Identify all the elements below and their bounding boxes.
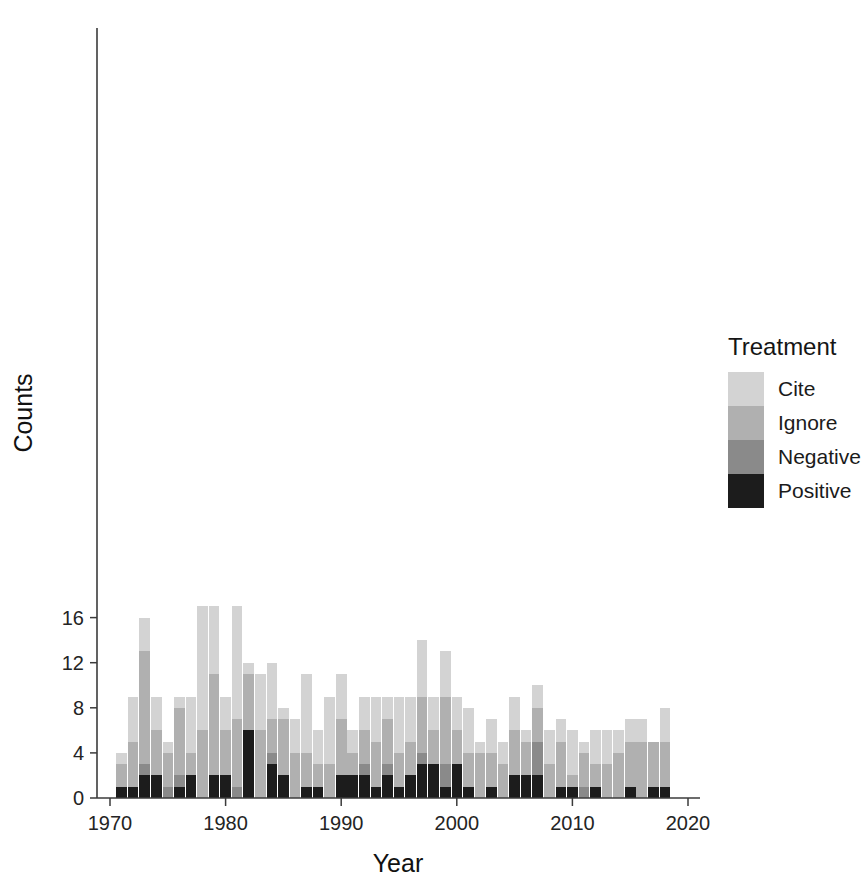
bar-segment-ignore (336, 719, 347, 775)
bar-segment-cite (267, 663, 278, 719)
legend-swatch-positive[interactable] (728, 474, 764, 508)
bar-segment-cite (186, 697, 197, 753)
bar-stack (602, 730, 613, 798)
bar-stack (509, 697, 520, 798)
bar-segment-ignore (521, 742, 532, 776)
bar-stack (220, 697, 231, 798)
bar-segment-cite (174, 697, 185, 708)
legend: Treatment CiteIgnoreNegativePositive (728, 333, 861, 508)
bar-stack (463, 708, 474, 798)
bar-segment-positive (186, 775, 197, 798)
bar-segment-positive (128, 787, 139, 798)
bar-segment-ignore (440, 697, 451, 765)
y-axis-title: Counts (9, 373, 37, 452)
bar-segment-positive (382, 775, 393, 798)
stacked-bar-chart: 0481216 197019801990200020102020 Counts … (0, 0, 863, 893)
bar-segment-cite (116, 753, 127, 764)
bar-segment-positive (405, 775, 416, 798)
bar-segment-cite (556, 719, 567, 742)
bar-stack (209, 606, 220, 798)
bar-segment-positive (371, 787, 382, 798)
bar-segment-cite (324, 697, 335, 765)
bar-segment-cite (602, 730, 613, 764)
bar-segment-ignore (278, 719, 289, 775)
bar-segment-ignore (394, 753, 405, 787)
bar-stack (625, 719, 636, 798)
legend-label-positive[interactable]: Positive (778, 479, 852, 502)
legend-label-cite[interactable]: Cite (778, 377, 815, 400)
bar-segment-cite (452, 697, 463, 731)
bar-segment-positive (347, 775, 358, 798)
bar-segment-positive (278, 775, 289, 798)
bar-segment-ignore (163, 753, 174, 787)
bar-segment-ignore (128, 742, 139, 787)
bar-segment-ignore (243, 674, 254, 730)
bar-segment-ignore (636, 742, 647, 798)
bar-stack (243, 663, 254, 798)
bar-segment-positive (521, 775, 532, 798)
bar-segment-cite (613, 730, 624, 753)
bar-segment-positive (648, 787, 659, 798)
bar-segment-cite (428, 697, 439, 731)
bar-segment-cite (382, 697, 393, 720)
bar-segment-positive (359, 775, 370, 798)
bar-segment-ignore (498, 764, 509, 798)
bar-segment-cite (417, 640, 428, 696)
bar-segment-ignore (197, 730, 208, 798)
bar-stack (359, 697, 370, 798)
bar-stack (151, 697, 162, 798)
bar-segment-ignore (544, 764, 555, 798)
bar-segment-positive (428, 764, 439, 798)
bar-stack (232, 606, 243, 798)
bar-segment-cite (486, 719, 497, 753)
bar-segment-cite (359, 697, 370, 731)
bar-segment-ignore (255, 730, 266, 798)
bar-stack (567, 730, 578, 798)
bar-segment-ignore (405, 742, 416, 776)
legend-label-negative[interactable]: Negative (778, 445, 861, 468)
bar-segment-ignore (347, 753, 358, 776)
bar-stack (579, 742, 590, 798)
bar-segment-cite (347, 730, 358, 753)
bar-segment-cite (509, 697, 520, 731)
bar-segment-ignore (602, 764, 613, 798)
bar-segment-positive (532, 775, 543, 798)
bar-segment-cite (255, 674, 266, 730)
bar-segment-ignore (290, 753, 301, 798)
y-tick-label: 16 (62, 607, 84, 629)
legend-swatch-cite[interactable] (728, 372, 764, 406)
bar-stack (405, 697, 416, 798)
bar-segment-ignore (463, 753, 474, 787)
bar-segment-ignore (382, 719, 393, 764)
bar-stack (498, 742, 509, 798)
bar-segment-ignore (359, 730, 370, 764)
bar-segment-ignore (648, 742, 659, 787)
bar-segment-positive (440, 787, 451, 798)
x-tick-label: 2000 (435, 812, 480, 834)
bar-segment-negative (532, 742, 543, 776)
bar-stack (163, 742, 174, 798)
bar-segment-positive (313, 787, 324, 798)
y-tick-label: 8 (73, 697, 84, 719)
bar-stack (590, 730, 601, 798)
bar-segment-positive (116, 787, 127, 798)
bar-segment-positive (660, 787, 671, 798)
bar-segment-cite (243, 663, 254, 674)
bar-stack (486, 719, 497, 798)
bar-segment-cite (590, 730, 601, 764)
y-axis-ticks: 0481216 (62, 607, 97, 809)
bar-stack (197, 606, 208, 798)
legend-swatch-negative[interactable] (728, 440, 764, 474)
legend-label-ignore[interactable]: Ignore (778, 411, 838, 434)
bar-segment-ignore (232, 719, 243, 787)
bar-segment-positive (590, 787, 601, 798)
bar-stack (324, 697, 335, 798)
bar-stack (648, 742, 659, 798)
bar-stack (290, 719, 301, 798)
bar-stack (440, 651, 451, 798)
bar-segment-cite (544, 730, 555, 764)
bar-segment-ignore (660, 742, 671, 787)
bar-stack (301, 674, 312, 798)
legend-swatch-ignore[interactable] (728, 406, 764, 440)
bar-stack (267, 663, 278, 798)
